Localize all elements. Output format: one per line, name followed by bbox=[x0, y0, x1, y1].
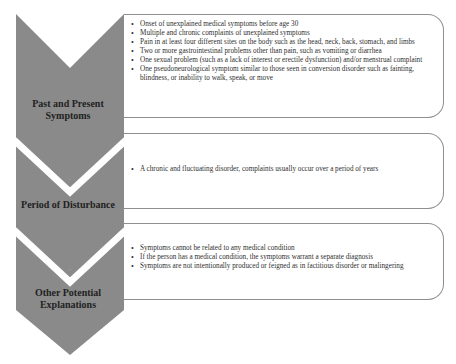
list-item: Two or more gastrointestinal problems ot… bbox=[140, 47, 437, 56]
content-box-other: Symptoms cannot be related to any medica… bbox=[124, 223, 444, 300]
list-item: If the person has a medical condition, t… bbox=[140, 253, 437, 262]
list-item: Onset of unexplained medical symptoms be… bbox=[140, 20, 437, 29]
list-item: Symptoms are not intentionally produced … bbox=[140, 262, 437, 271]
list-item: One pseudoneurological symptom similar t… bbox=[140, 65, 437, 83]
list-item: A chronic and fluctuating disorder, comp… bbox=[140, 165, 437, 174]
label-line: Other Potential bbox=[12, 287, 124, 299]
label-line: Past and Present bbox=[12, 98, 124, 110]
content-box-past-present: Onset of unexplained medical symptoms be… bbox=[124, 14, 444, 118]
bullet-list: Symptoms cannot be related to any medica… bbox=[124, 244, 443, 271]
list-item: Pain in at least four different sites on… bbox=[140, 38, 437, 47]
label-line: Explanations bbox=[12, 299, 124, 311]
section-label-period: Period of Disturbance bbox=[12, 199, 124, 211]
bullet-list: A chronic and fluctuating disorder, comp… bbox=[124, 165, 443, 174]
section-label-other: Other Potential Explanations bbox=[12, 287, 124, 311]
bullet-list: Onset of unexplained medical symptoms be… bbox=[124, 20, 443, 83]
list-item: Symptoms cannot be related to any medica… bbox=[140, 244, 437, 253]
section-label-past-present: Past and Present Symptoms bbox=[12, 98, 124, 122]
list-item: Multiple and chronic complaints of unexp… bbox=[140, 29, 437, 38]
label-line: Symptoms bbox=[12, 110, 124, 122]
list-item: One sexual problem (such as a lack of in… bbox=[140, 56, 437, 65]
label-line: Period of Disturbance bbox=[12, 199, 124, 211]
content-box-period: A chronic and fluctuating disorder, comp… bbox=[124, 133, 444, 209]
